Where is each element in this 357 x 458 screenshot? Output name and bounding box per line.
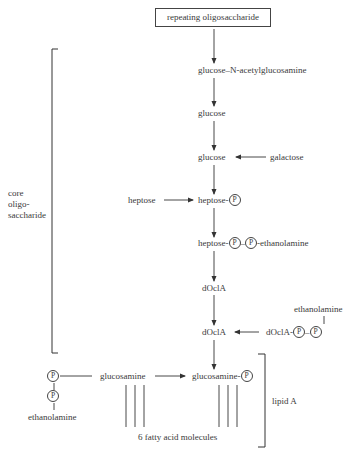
fatty-acids-label: 6 fatty acid molecules (138, 432, 217, 443)
heptose-phosphate-label: heptose-P (198, 195, 241, 206)
ethanolamine-top-label: ethanolamine (294, 304, 342, 315)
heptose-text: heptose- (198, 238, 229, 248)
docla-label: dOclA (202, 283, 226, 294)
docla-label-2: dOclA (202, 327, 226, 338)
ethanolamine-bottom-label: ethanolamine (28, 412, 76, 423)
core-oligosaccharide-bracket (52, 49, 58, 353)
glucosamine-phosphate-label: glucosamine-P (192, 371, 253, 382)
phosphate-left-top: P (47, 371, 59, 382)
phosphate-icon: P (293, 326, 305, 338)
heptose-input-label: heptose (128, 195, 156, 206)
phosphate-icon: P (310, 326, 322, 338)
glucose-n-acetylglucosamine-label: glucose–N-acetylglucosamine (198, 65, 306, 76)
phosphate-icon: P (47, 370, 59, 382)
lipid-a-bracket (258, 354, 265, 447)
core-label-line: oligo- (8, 199, 46, 210)
repeating-oligosaccharide-box: repeating oligosaccharide (155, 8, 271, 27)
glucose-label: glucose (198, 108, 226, 119)
core-label-line: core (8, 188, 46, 199)
phosphate-left-bottom: P (47, 391, 59, 402)
ethanolamine-text: -ethanolamine (257, 238, 308, 248)
heptose-pp-ethanolamine-label: heptose-P–P-ethanolamine (198, 238, 308, 249)
phosphate-icon: P (47, 390, 59, 402)
glucosamine-label: glucosamine (100, 371, 146, 382)
core-oligosaccharide-label: core oligo- saccharide (8, 188, 46, 221)
galactose-label: galactose (270, 152, 303, 163)
glucosamine-text: glucosamine- (192, 371, 241, 381)
heptose-text: heptose- (198, 195, 229, 205)
glucose-label-2: glucose (198, 152, 226, 163)
phosphate-icon: P (241, 370, 253, 382)
docla-text: dOclA- (266, 327, 293, 337)
phosphate-icon: P (229, 237, 241, 249)
core-label-line: saccharide (8, 210, 46, 221)
dash-text: – (305, 327, 310, 337)
lipid-a-label: lipid A (272, 396, 297, 407)
phosphate-icon: P (229, 194, 241, 206)
docla-pp-label: dOclA-P–P (266, 327, 322, 338)
phosphate-icon: P (245, 237, 257, 249)
